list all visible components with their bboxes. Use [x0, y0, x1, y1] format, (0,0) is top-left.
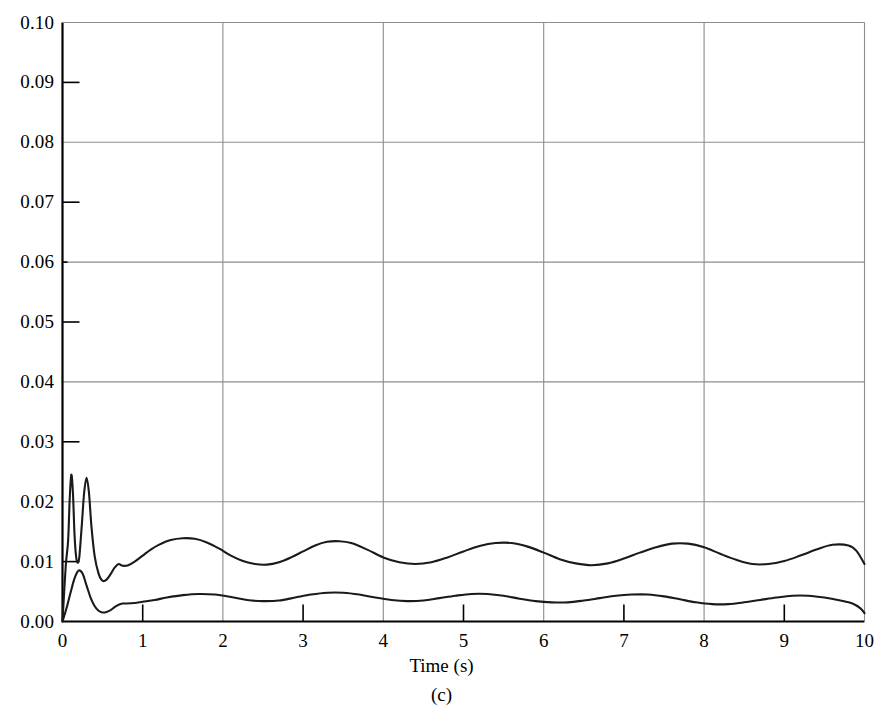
- y-tick-label: 0.06: [2, 252, 54, 271]
- x-tick-label: 2: [203, 631, 243, 650]
- gridlines-horizontal: [63, 142, 865, 501]
- y-tick-label: 0.08: [2, 132, 54, 151]
- tickmarks-x: [143, 605, 785, 622]
- figure-container: 0.000.010.020.030.040.050.060.070.080.09…: [0, 0, 883, 720]
- x-tick-label: 9: [764, 631, 804, 650]
- x-tick-label: 5: [444, 631, 484, 650]
- x-tick-label: 0: [43, 631, 83, 650]
- y-tick-label: 0.10: [2, 13, 54, 32]
- x-tick-label: 8: [684, 631, 724, 650]
- x-tick-label: 4: [363, 631, 403, 650]
- x-tick-label: 1: [123, 631, 163, 650]
- y-tick-label: 0.07: [2, 192, 54, 211]
- series-line-upper-curve: [63, 475, 865, 622]
- y-tick-label: 0.00: [2, 612, 54, 631]
- x-axis-title: Time (s): [0, 655, 883, 676]
- y-tick-label: 0.03: [2, 432, 54, 451]
- y-tick-label: 0.05: [2, 312, 54, 331]
- data-series-group: [63, 475, 865, 622]
- y-tick-label: 0.04: [2, 372, 54, 391]
- gridlines-vertical: [223, 23, 704, 622]
- subfigure-label: (c): [0, 684, 883, 705]
- x-tick-label: 6: [524, 631, 564, 650]
- chart-plot-area: [0, 0, 883, 720]
- axis-frame: [63, 23, 865, 622]
- y-tick-label: 0.01: [2, 552, 54, 571]
- x-tick-label: 7: [604, 631, 644, 650]
- x-tick-label: 3: [283, 631, 323, 650]
- y-tick-label: 0.02: [2, 492, 54, 511]
- y-tick-label: 0.09: [2, 72, 54, 91]
- x-tick-label: 10: [845, 631, 883, 650]
